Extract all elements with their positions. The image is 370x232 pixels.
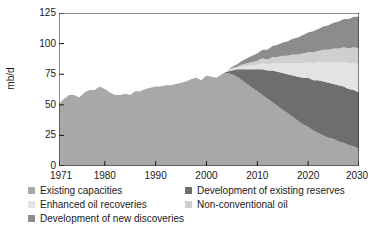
- x-tick-label: 1990: [144, 170, 166, 181]
- legend-label: Enhanced oil recoveries: [40, 199, 147, 210]
- x-tick-label: 2020: [297, 170, 319, 181]
- x-tick-label: 2030: [346, 170, 368, 181]
- chart-figure: mb/d 0255075100125 197119801990200020102…: [0, 0, 370, 232]
- legend-item[interactable]: Non-conventional oil: [185, 199, 288, 210]
- legend-label: Existing capacities: [40, 185, 122, 196]
- x-tick-label: 2000: [195, 170, 217, 181]
- x-tick-label: 2010: [246, 170, 268, 181]
- legend-swatch-icon: [185, 201, 192, 208]
- legend-swatch-icon: [28, 215, 35, 222]
- legend-item[interactable]: Existing capacities: [28, 185, 122, 196]
- legend-label: Development of existing reserves: [197, 185, 345, 196]
- legend-item[interactable]: Development of existing reserves: [185, 185, 345, 196]
- x-tick-label: 1980: [94, 170, 116, 181]
- legend-label: Development of new discoveries: [40, 213, 184, 224]
- legend-item[interactable]: Enhanced oil recoveries: [28, 199, 147, 210]
- legend-swatch-icon: [185, 187, 192, 194]
- x-tick-label: 1971: [50, 170, 72, 181]
- chart-legend: Existing capacitiesDevelopment of existi…: [28, 185, 368, 230]
- legend-swatch-icon: [28, 201, 35, 208]
- legend-label: Non-conventional oil: [197, 199, 288, 210]
- legend-item[interactable]: Development of new discoveries: [28, 213, 184, 224]
- legend-swatch-icon: [28, 187, 35, 194]
